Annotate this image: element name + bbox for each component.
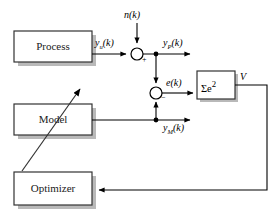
node-dot-yp — [154, 52, 159, 57]
yu-tail: (k) — [103, 37, 114, 48]
cost-exponent: 2 — [212, 79, 216, 89]
block-process-label: Process — [14, 41, 92, 52]
block-optimizer-label: Optimizer — [14, 183, 92, 194]
junction-sign-noise: + — [142, 56, 147, 64]
signal-label-process-undisturbed: yu(k) — [95, 38, 114, 51]
cost-sigma-text: Σe — [201, 83, 212, 94]
yp-tail: (k) — [171, 37, 182, 48]
signal-label-error: e(k) — [166, 78, 182, 88]
junction-sign-error: − — [161, 94, 166, 102]
signal-label-noise: n(k) — [124, 10, 140, 20]
ym-tail: (k) — [173, 122, 184, 133]
signal-label-cost-output: V — [240, 72, 246, 82]
signal-label-model-output: yM(k) — [163, 123, 184, 136]
signal-label-process-output: yP(k) — [163, 38, 183, 51]
block-model-label: Model — [14, 114, 92, 125]
diagram-canvas: Process Model Optimizer Σe2 n(k) yu(k) y… — [0, 0, 278, 219]
block-cost-label: Σe2 — [201, 80, 216, 94]
node-dot-ym — [154, 118, 159, 123]
wire-feedback-to-optimizer — [99, 85, 267, 190]
